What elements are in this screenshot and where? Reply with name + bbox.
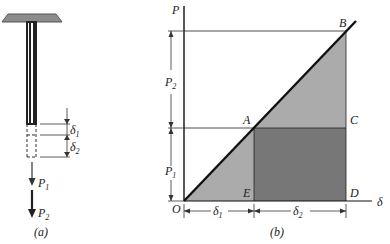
point-c-label: C	[350, 113, 359, 127]
delta2-label: δ2	[70, 140, 80, 156]
load-arrow-p2	[28, 190, 36, 218]
figure-a: δ1 δ2 P1 P2 (a)	[2, 14, 80, 239]
load-p1-label: P1	[37, 176, 49, 192]
caption-a: (a)	[34, 225, 48, 239]
ceiling-support	[2, 14, 62, 22]
delta1-dimension-label: δ1	[213, 204, 223, 220]
point-d-label: D	[349, 186, 359, 200]
rectangle-AEDC	[254, 128, 346, 201]
point-e-label: E	[242, 186, 251, 200]
point-a-label: A	[242, 113, 251, 127]
p2-dimension-label: P2	[164, 75, 176, 91]
p1-dimension-label: P1	[164, 164, 176, 180]
delta1-label: δ1	[70, 123, 80, 139]
p-axis-label: P	[171, 3, 180, 17]
delta-axis-label: δ	[377, 195, 383, 209]
origin-label: O	[172, 202, 181, 216]
load-arrow-p1	[29, 162, 36, 186]
diagram-canvas: δ1 δ2 P1 P2 (a) P δ	[0, 0, 390, 244]
point-b-label: B	[339, 16, 347, 30]
caption-b: (b)	[270, 225, 284, 239]
elongation-dashed	[27, 124, 36, 157]
delta2-dimension-label: δ2	[293, 204, 303, 220]
figure-b: P δ O B A C E D P2 P1	[164, 3, 383, 239]
load-p2-label: P2	[37, 206, 49, 222]
